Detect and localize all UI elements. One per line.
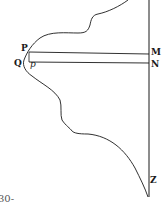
label-Z: Z <box>150 176 157 185</box>
ordinate-PM <box>29 52 149 54</box>
label-p: p <box>30 60 36 69</box>
curve <box>23 0 148 197</box>
label-P: P <box>21 44 28 53</box>
cut-off-text-fragment: 30- <box>0 193 14 203</box>
ordinate-pN <box>29 62 149 63</box>
label-Q: Q <box>14 59 22 68</box>
label-N: N <box>151 60 159 69</box>
curve-diagram <box>0 0 166 203</box>
label-M: M <box>151 48 161 57</box>
